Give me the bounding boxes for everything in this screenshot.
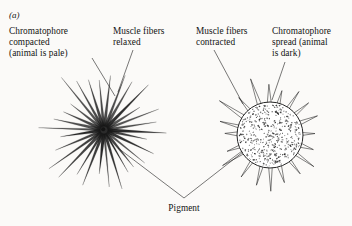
panel-letter: (a)	[9, 10, 20, 20]
label-muscle-fibers-contracted: Muscle fibers contracted	[196, 26, 272, 48]
label-muscle-fibers-relaxed: Muscle fibers relaxed	[113, 26, 189, 48]
figure-root: (a) Chromatophore compacted (animal is p…	[0, 0, 352, 226]
label-chromatophore-compacted: Chromatophore compacted (animal is pale)	[9, 26, 113, 60]
label-pigment: Pigment	[156, 203, 212, 214]
compacted-chromatophore-glyph	[38, 75, 166, 189]
spread-chromatophore-glyph	[219, 79, 317, 191]
label-chromatophore-spread: Chromatophore spread (animal is dark)	[272, 26, 352, 60]
